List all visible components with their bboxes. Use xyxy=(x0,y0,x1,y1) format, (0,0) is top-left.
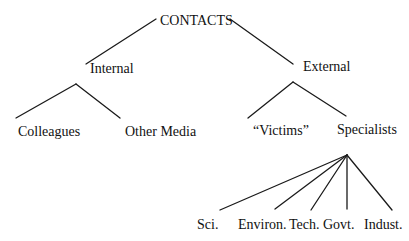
node-other-media: Other Media xyxy=(125,124,196,140)
edge-specialists-sci xyxy=(220,155,347,210)
node-sci: Sci. xyxy=(197,217,218,233)
node-govt: Govt. xyxy=(323,217,355,233)
node-victims: “Victims” xyxy=(253,123,309,139)
node-colleagues: Colleagues xyxy=(18,124,80,140)
edge-contacts-external xyxy=(230,19,293,64)
edge-external-specialists xyxy=(293,82,346,116)
edge-internal-colleagues xyxy=(16,84,76,118)
node-contacts: CONTACTS xyxy=(160,13,233,29)
node-environ: Environ. xyxy=(238,217,287,233)
node-specialists: Specialists xyxy=(337,122,397,138)
node-external: External xyxy=(303,59,350,75)
node-tech: Tech. xyxy=(289,217,320,233)
edge-contacts-internal xyxy=(86,19,156,64)
node-indust: Indust. xyxy=(364,217,403,233)
tree-edges xyxy=(0,0,409,241)
edge-internal-other-media xyxy=(76,84,120,118)
node-internal: Internal xyxy=(90,61,134,77)
edge-external-victims xyxy=(248,82,293,118)
edge-specialists-indust xyxy=(347,155,392,210)
